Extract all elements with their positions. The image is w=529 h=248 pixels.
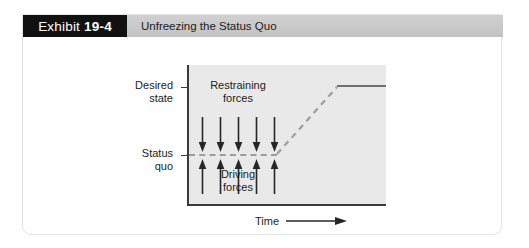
x-axis-label-time: Time (255, 215, 348, 227)
y-axis-label-desired-state: Desired state (83, 79, 173, 105)
desired-state-solid-line (337, 85, 386, 87)
restraining-forces-caption: Restraining forces (193, 79, 283, 105)
y-tick-desired-state (181, 87, 189, 88)
restraining-force-arrows (198, 117, 279, 153)
desired-state-line-2: state (83, 92, 173, 105)
exhibit-label: Exhibit (38, 19, 80, 34)
restraining-line-1: Restraining (193, 79, 283, 92)
arrow-down-icon (216, 117, 225, 153)
y-tick-status-quo (181, 155, 189, 156)
restraining-line-2: forces (193, 92, 283, 105)
driving-line-2: forces (193, 181, 283, 194)
exhibit-number: 19-4 (84, 19, 112, 34)
driving-forces-caption: Driving forces (193, 168, 283, 194)
time-label-text: Time (255, 215, 279, 227)
arrow-down-icon (270, 117, 279, 153)
driving-line-1: Driving (193, 168, 283, 181)
exhibit-header: Exhibit 19-4 Unfreezing the Status Quo (23, 15, 503, 37)
figure-body: Desired state Status quo (23, 37, 501, 234)
exhibit-number-badge: Exhibit 19-4 (23, 15, 127, 37)
arrow-down-icon (198, 117, 207, 153)
desired-state-line-1: Desired (83, 79, 173, 92)
change-ramp-dashed-line (277, 86, 337, 155)
status-quo-line-1: Status (83, 147, 173, 160)
arrow-right-icon (286, 216, 348, 226)
exhibit-title: Unfreezing the Status Quo (141, 20, 277, 32)
y-axis-label-status-quo: Status quo (83, 147, 173, 173)
arrow-down-icon (234, 117, 243, 153)
arrow-down-icon (252, 117, 261, 153)
status-quo-dashed-line (189, 154, 277, 156)
plot-area: Restraining forces Driving forces (187, 65, 386, 206)
status-quo-line-2: quo (83, 160, 173, 173)
exhibit-frame: Exhibit 19-4 Unfreezing the Status Quo D… (22, 14, 502, 235)
exhibit-title-bar: Unfreezing the Status Quo (127, 15, 503, 37)
